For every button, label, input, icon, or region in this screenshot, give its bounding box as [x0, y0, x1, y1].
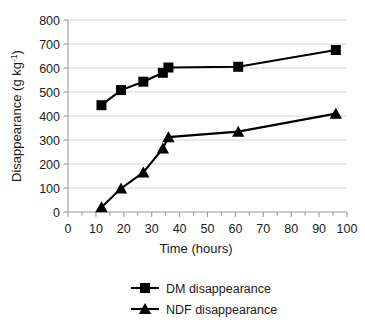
data-point-dm-96: [331, 45, 341, 55]
x-tick-label-80: 80: [284, 222, 298, 236]
legend-item-dm: DM disappearance: [131, 282, 271, 296]
y-axis-title: Disappearance (g kg-1): [9, 50, 24, 182]
y-tick-label-200: 200: [39, 158, 60, 172]
legend-item-ndf: NDF disappearance: [131, 303, 277, 317]
data-point-dm-36: [163, 63, 173, 73]
y-axis-ticks: [64, 20, 69, 212]
data-point-dm-19: [116, 85, 126, 95]
y-tick-label-700: 700: [39, 38, 60, 52]
x-axis-title-text: Time (hours): [159, 241, 232, 256]
legend-marker-square-icon: [140, 283, 150, 293]
x-axis-ticks: [68, 212, 347, 217]
x-tick-label-10: 10: [89, 222, 103, 236]
chart-legend: DM disappearanceNDF disappearance: [131, 282, 277, 317]
x-tick-label-20: 20: [117, 222, 131, 236]
svg-text:Disappearance (g kg-1): Disappearance (g kg-1): [9, 50, 24, 182]
y-tick-label-0: 0: [53, 206, 60, 220]
x-tick-label-100: 100: [337, 222, 358, 236]
y-tick-label-100: 100: [39, 182, 60, 196]
x-axis-title: Time (hours): [159, 241, 232, 256]
data-point-dm-12: [96, 100, 106, 110]
legend-label-text: NDF disappearance: [166, 303, 277, 317]
series-line-dm: [101, 50, 335, 105]
data-point-dm-27: [138, 77, 148, 87]
x-axis-tick-labels: 0102030405060708090100: [65, 222, 358, 236]
y-tick-label-500: 500: [39, 86, 60, 100]
legend-label-text: DM disappearance: [166, 282, 271, 296]
x-tick-label-40: 40: [173, 222, 187, 236]
y-tick-label-400: 400: [39, 110, 60, 124]
gridlines: [68, 20, 347, 188]
x-tick-label-90: 90: [312, 222, 326, 236]
x-tick-label-0: 0: [65, 222, 72, 236]
y-axis-title-text: Disappearance (g kg: [9, 62, 24, 182]
data-point-dm-61: [233, 62, 243, 72]
x-tick-label-50: 50: [201, 222, 215, 236]
data-point-ndf-34: [157, 142, 169, 153]
y-tick-label-300: 300: [39, 134, 60, 148]
y-tick-label-600: 600: [39, 62, 60, 76]
series-markers: [95, 45, 342, 212]
series-line-ndf: [101, 114, 335, 208]
series-lines: [101, 50, 335, 207]
data-point-ndf-96: [330, 108, 342, 119]
chart-canvas: 0102030405060708090100 01002003004005006…: [0, 0, 365, 325]
disappearance-line-chart: 0102030405060708090100 01002003004005006…: [0, 0, 365, 325]
x-tick-label-60: 60: [228, 222, 242, 236]
y-tick-label-800: 800: [39, 14, 60, 28]
y-axis-tick-labels: 0100200300400500600700800: [39, 14, 60, 220]
x-tick-label-30: 30: [145, 222, 159, 236]
y-axis-title-tail: ): [9, 50, 24, 54]
x-tick-label-70: 70: [256, 222, 270, 236]
